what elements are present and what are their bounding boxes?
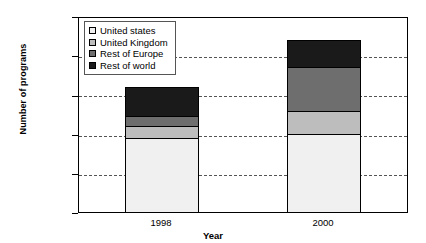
legend-swatch-icon xyxy=(89,39,96,46)
bar-2000[interactable] xyxy=(287,40,361,213)
y-axis-tick-mark xyxy=(72,213,78,214)
bar-segment-rest-of-europe[interactable] xyxy=(288,67,360,111)
legend-label: Rest of world xyxy=(100,60,155,72)
bar-segment-rest-of-europe[interactable] xyxy=(126,116,198,126)
x-axis-tick-label-2000: 2000 xyxy=(263,217,383,228)
bar-segment-united-states[interactable] xyxy=(126,138,198,213)
bar-segment-united-states[interactable] xyxy=(288,134,360,212)
x-axis-tick-label-1998: 1998 xyxy=(101,217,221,228)
legend-swatch-icon xyxy=(89,50,96,57)
legend-swatch-icon xyxy=(89,62,96,69)
legend-item-united-kingdom[interactable]: United Kingdom xyxy=(89,37,168,49)
legend: United states United Kingdom Rest of Eur… xyxy=(84,21,176,75)
legend-item-rest-of-world[interactable]: Rest of world xyxy=(89,60,168,72)
legend-item-rest-of-europe[interactable]: Rest of Europe xyxy=(89,48,168,60)
x-axis-title: Year xyxy=(0,230,426,241)
bar-segment-rest-of-world[interactable] xyxy=(288,40,360,68)
bar-segment-united-kingdom[interactable] xyxy=(126,126,198,138)
legend-label: United states xyxy=(100,25,155,37)
y-axis-title: Number of programs xyxy=(18,19,28,159)
legend-label: Rest of Europe xyxy=(100,48,163,60)
legend-item-united-states[interactable]: United states xyxy=(89,25,168,37)
stacked-bar-chart: Number of programs 2,500 2,000 1,500 1,0… xyxy=(0,0,426,243)
legend-label: United Kingdom xyxy=(100,37,168,49)
bar-segment-united-kingdom[interactable] xyxy=(288,111,360,134)
bar-1998[interactable] xyxy=(125,87,199,212)
legend-swatch-icon xyxy=(89,27,96,34)
bar-segment-rest-of-world[interactable] xyxy=(126,87,198,116)
